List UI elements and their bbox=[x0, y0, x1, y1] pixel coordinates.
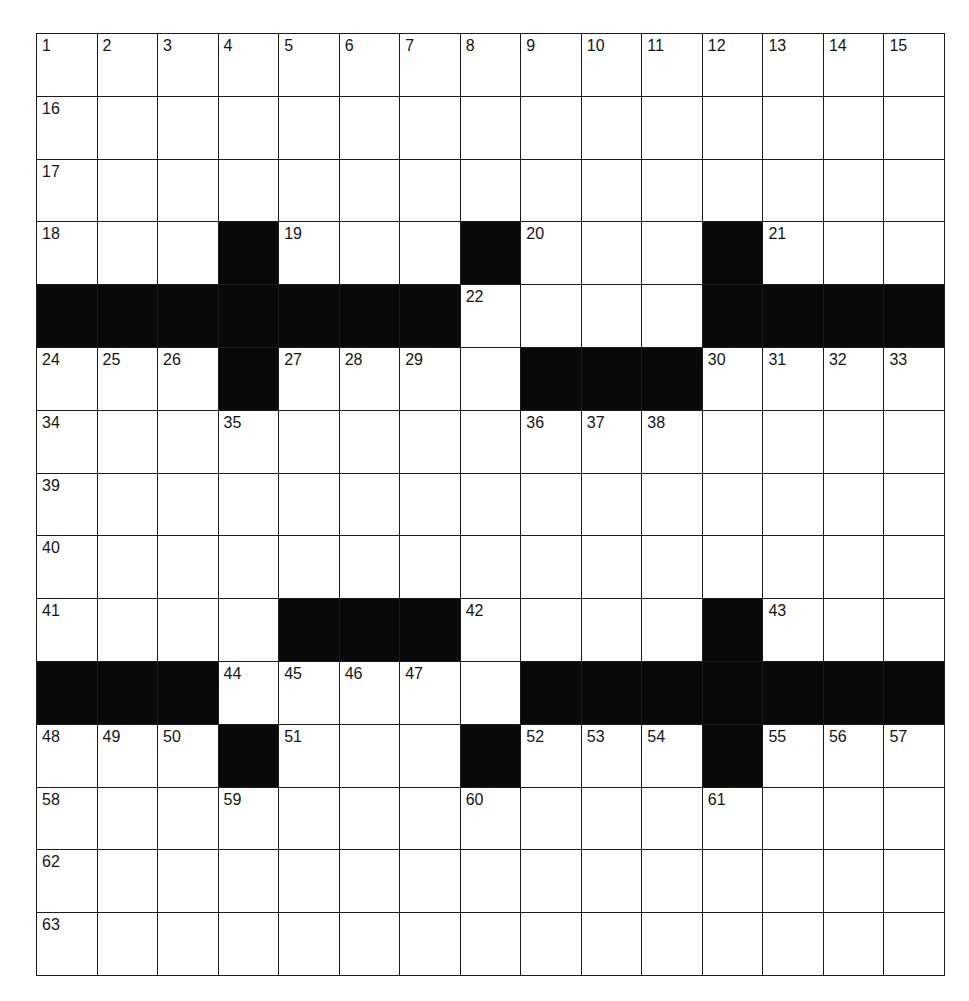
grid-cell[interactable]: 26 bbox=[158, 348, 218, 410]
grid-cell[interactable]: 33 bbox=[884, 348, 944, 410]
grid-cell[interactable]: 32 bbox=[824, 348, 884, 410]
grid-cell[interactable]: 53 bbox=[582, 725, 642, 787]
grid-cell[interactable] bbox=[824, 474, 884, 536]
grid-cell[interactable] bbox=[340, 850, 400, 912]
grid-cell[interactable]: 46 bbox=[340, 662, 400, 724]
grid-cell[interactable] bbox=[400, 474, 460, 536]
grid-cell[interactable]: 45 bbox=[279, 662, 339, 724]
grid-cell[interactable] bbox=[521, 285, 581, 347]
grid-cell[interactable] bbox=[763, 536, 823, 598]
grid-cell[interactable] bbox=[158, 222, 218, 284]
grid-cell[interactable]: 9 bbox=[521, 34, 581, 96]
grid-cell[interactable] bbox=[340, 788, 400, 850]
grid-cell[interactable] bbox=[884, 599, 944, 661]
grid-cell[interactable] bbox=[158, 160, 218, 222]
grid-cell[interactable] bbox=[642, 474, 702, 536]
grid-cell[interactable] bbox=[279, 160, 339, 222]
grid-cell[interactable] bbox=[582, 160, 642, 222]
grid-cell[interactable] bbox=[98, 788, 158, 850]
grid-cell[interactable]: 6 bbox=[340, 34, 400, 96]
grid-cell[interactable] bbox=[461, 411, 521, 473]
grid-cell[interactable]: 55 bbox=[763, 725, 823, 787]
grid-cell[interactable] bbox=[582, 536, 642, 598]
grid-cell[interactable]: 30 bbox=[703, 348, 763, 410]
grid-cell[interactable] bbox=[98, 222, 158, 284]
grid-cell[interactable]: 48 bbox=[37, 725, 97, 787]
grid-cell[interactable] bbox=[884, 222, 944, 284]
grid-cell[interactable] bbox=[642, 536, 702, 598]
grid-cell[interactable] bbox=[582, 913, 642, 975]
grid-cell[interactable]: 51 bbox=[279, 725, 339, 787]
grid-cell[interactable]: 31 bbox=[763, 348, 823, 410]
grid-cell[interactable] bbox=[400, 160, 460, 222]
grid-cell[interactable] bbox=[158, 788, 218, 850]
grid-cell[interactable]: 4 bbox=[219, 34, 279, 96]
grid-cell[interactable] bbox=[340, 160, 400, 222]
grid-cell[interactable] bbox=[582, 850, 642, 912]
grid-cell[interactable] bbox=[400, 788, 460, 850]
grid-cell[interactable] bbox=[158, 474, 218, 536]
grid-cell[interactable] bbox=[158, 599, 218, 661]
grid-cell[interactable] bbox=[703, 160, 763, 222]
grid-cell[interactable]: 57 bbox=[884, 725, 944, 787]
grid-cell[interactable] bbox=[763, 913, 823, 975]
grid-cell[interactable]: 1 bbox=[37, 34, 97, 96]
grid-cell[interactable] bbox=[98, 97, 158, 159]
grid-cell[interactable] bbox=[642, 913, 702, 975]
grid-cell[interactable] bbox=[340, 97, 400, 159]
grid-cell[interactable] bbox=[642, 850, 702, 912]
grid-cell[interactable] bbox=[642, 599, 702, 661]
grid-cell[interactable] bbox=[703, 913, 763, 975]
grid-cell[interactable]: 34 bbox=[37, 411, 97, 473]
grid-cell[interactable] bbox=[279, 536, 339, 598]
grid-cell[interactable]: 21 bbox=[763, 222, 823, 284]
grid-cell[interactable] bbox=[400, 222, 460, 284]
grid-cell[interactable]: 58 bbox=[37, 788, 97, 850]
grid-cell[interactable] bbox=[521, 913, 581, 975]
grid-cell[interactable] bbox=[884, 536, 944, 598]
grid-cell[interactable] bbox=[461, 850, 521, 912]
grid-cell[interactable] bbox=[400, 97, 460, 159]
grid-cell[interactable] bbox=[400, 411, 460, 473]
grid-cell[interactable]: 15 bbox=[884, 34, 944, 96]
grid-cell[interactable] bbox=[279, 850, 339, 912]
grid-cell[interactable] bbox=[219, 160, 279, 222]
grid-cell[interactable] bbox=[763, 474, 823, 536]
grid-cell[interactable]: 3 bbox=[158, 34, 218, 96]
grid-cell[interactable] bbox=[884, 97, 944, 159]
grid-cell[interactable] bbox=[824, 788, 884, 850]
grid-cell[interactable] bbox=[158, 850, 218, 912]
grid-cell[interactable] bbox=[219, 97, 279, 159]
grid-cell[interactable]: 27 bbox=[279, 348, 339, 410]
grid-cell[interactable] bbox=[703, 536, 763, 598]
grid-cell[interactable]: 18 bbox=[37, 222, 97, 284]
grid-cell[interactable] bbox=[642, 222, 702, 284]
grid-cell[interactable] bbox=[400, 725, 460, 787]
grid-cell[interactable] bbox=[219, 850, 279, 912]
grid-cell[interactable] bbox=[884, 913, 944, 975]
grid-cell[interactable]: 43 bbox=[763, 599, 823, 661]
grid-cell[interactable] bbox=[521, 850, 581, 912]
grid-cell[interactable]: 49 bbox=[98, 725, 158, 787]
grid-cell[interactable]: 60 bbox=[461, 788, 521, 850]
grid-cell[interactable] bbox=[461, 348, 521, 410]
grid-cell[interactable] bbox=[703, 850, 763, 912]
grid-cell[interactable] bbox=[400, 536, 460, 598]
grid-cell[interactable] bbox=[642, 97, 702, 159]
grid-cell[interactable] bbox=[461, 97, 521, 159]
grid-cell[interactable]: 22 bbox=[461, 285, 521, 347]
grid-cell[interactable] bbox=[98, 536, 158, 598]
grid-cell[interactable] bbox=[582, 285, 642, 347]
grid-cell[interactable] bbox=[340, 913, 400, 975]
grid-cell[interactable]: 38 bbox=[642, 411, 702, 473]
grid-cell[interactable]: 29 bbox=[400, 348, 460, 410]
grid-cell[interactable] bbox=[98, 160, 158, 222]
grid-cell[interactable]: 7 bbox=[400, 34, 460, 96]
grid-cell[interactable] bbox=[461, 536, 521, 598]
grid-cell[interactable] bbox=[763, 411, 823, 473]
grid-cell[interactable] bbox=[884, 160, 944, 222]
grid-cell[interactable] bbox=[824, 599, 884, 661]
grid-cell[interactable]: 59 bbox=[219, 788, 279, 850]
grid-cell[interactable] bbox=[824, 850, 884, 912]
grid-cell[interactable] bbox=[884, 788, 944, 850]
